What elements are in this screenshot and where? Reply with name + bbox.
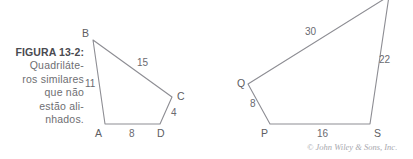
edge-label-ab: 11 [85,78,95,89]
vertex-label-b: B [82,27,89,39]
shape-quadrilateral-abcd [93,40,172,124]
caption-line-title: FIGURA 13-2: [6,46,84,59]
caption-line-1: Quadriláte- [6,59,84,72]
caption-line-3: que não [6,86,84,99]
vertex-label-d: D [157,127,165,139]
vertex-label-p: P [261,127,268,139]
vertex-label-s: S [374,127,381,139]
edge-label-da: 8 [129,128,135,139]
caption-line-2: ros similares [6,73,84,86]
edge-label-bc: 15 [137,57,148,68]
vertex-label-a: A [95,127,102,139]
edge-label-qr: 30 [305,26,316,37]
edge-label-rs: 22 [379,54,390,65]
copyright-notice: © John Wiley & Sons, Inc. [307,142,397,152]
edge-label-sp: 16 [317,128,328,139]
vertex-label-c: C [177,90,185,102]
caption-line-4: estão ali- [6,100,84,113]
shape-quadrilateral-pqrs [248,0,389,124]
figure-13-2: FIGURA 13-2: Quadriláte- ros similares q… [0,0,413,159]
edge-label-cd: 4 [171,107,177,118]
figure-caption: FIGURA 13-2: Quadriláte- ros similares q… [6,46,84,126]
edge-label-pq: 8 [250,98,256,109]
vertex-label-q: Q [237,77,245,89]
caption-line-5: nhados. [6,113,84,126]
